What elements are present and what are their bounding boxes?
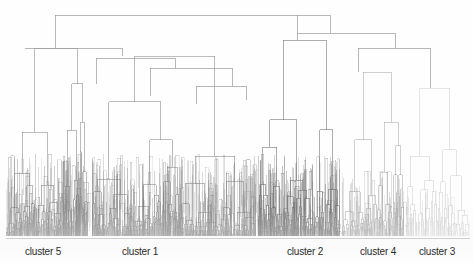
cluster-label-5: cluster 5 [25, 246, 61, 257]
cluster-label-3: cluster 3 [419, 246, 455, 257]
dendrogram-plot [0, 0, 473, 266]
cluster-label-2: cluster 2 [287, 246, 323, 257]
cluster-label-1: cluster 1 [122, 246, 158, 257]
dendrogram-figure: cluster 5 cluster 1 cluster 2 cluster 4 … [0, 0, 473, 266]
cluster-label-4: cluster 4 [360, 246, 396, 257]
